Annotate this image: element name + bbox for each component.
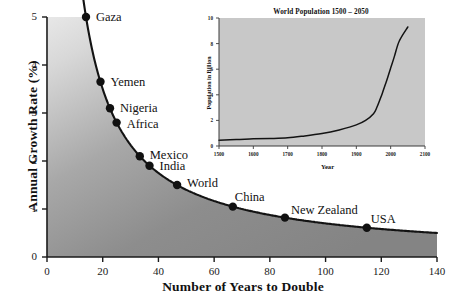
data-point-label-nigeria: Nigeria bbox=[120, 101, 157, 116]
data-point-new-zealand bbox=[281, 213, 289, 221]
data-point-mexico bbox=[136, 152, 144, 160]
inset-y-tick-label: 4 bbox=[201, 92, 213, 98]
inset-y-tick-label: 2 bbox=[201, 117, 213, 123]
x-tick-label: 80 bbox=[255, 265, 285, 277]
inset-y-tick-label: 8 bbox=[201, 41, 213, 47]
inset-x-tick-label: 2100 bbox=[415, 151, 435, 157]
inset-y-tick-label: 6 bbox=[201, 66, 213, 72]
x-tick-label: 20 bbox=[88, 265, 118, 277]
data-point-label-yemen: Yemen bbox=[110, 75, 145, 90]
inset-x-tick-label: 1800 bbox=[312, 151, 332, 157]
data-point-label-india: India bbox=[160, 159, 186, 174]
x-tick-label: 100 bbox=[311, 265, 341, 277]
x-tick-label: 40 bbox=[143, 265, 173, 277]
data-point-world bbox=[173, 181, 181, 189]
y-tick-label: 5 bbox=[17, 10, 37, 22]
inset-x-tick-label: 2000 bbox=[381, 151, 401, 157]
inset-x-tick-label: 1500 bbox=[209, 151, 229, 157]
y-tick-label: 4 bbox=[17, 58, 37, 70]
data-point-label-china: China bbox=[235, 190, 265, 205]
inset-chart-title: World Population 1500 – 2050 bbox=[197, 8, 445, 16]
y-tick-label: 0 bbox=[17, 250, 37, 262]
data-point-label-new-zealand: New Zealand bbox=[291, 203, 358, 218]
y-tick-label: 2 bbox=[17, 154, 37, 166]
inset-x-axis-title: Year bbox=[215, 163, 440, 170]
data-point-label-usa: USA bbox=[371, 212, 396, 227]
x-axis-title: Number of Years to Double bbox=[47, 279, 439, 295]
inset-y-tick-label: 0 bbox=[201, 143, 213, 149]
y-tick-label: 1 bbox=[17, 202, 37, 214]
inset-panel bbox=[219, 18, 425, 146]
inset-chart: World Population 1500 – 2050 Population … bbox=[197, 6, 445, 178]
data-point-nigeria bbox=[106, 104, 114, 112]
data-point-label-gaza: Gaza bbox=[96, 10, 122, 25]
y-tick-label: 3 bbox=[17, 106, 37, 118]
x-tick-label: 0 bbox=[32, 265, 62, 277]
inset-x-tick-label: 1900 bbox=[346, 151, 366, 157]
x-tick-label: 120 bbox=[366, 265, 396, 277]
inset-y-tick-label: 10 bbox=[201, 15, 213, 21]
data-point-yemen bbox=[96, 78, 104, 86]
data-point-africa bbox=[112, 118, 120, 126]
data-point-usa bbox=[363, 224, 371, 232]
chart-figure: Annual Growth Rate (%) Number of Years t… bbox=[0, 0, 451, 303]
data-point-label-africa: Africa bbox=[127, 117, 159, 132]
inset-y-axis-title: Population in Billion bbox=[206, 47, 212, 119]
inset-x-tick-label: 1600 bbox=[243, 151, 263, 157]
x-tick-label: 140 bbox=[422, 265, 451, 277]
data-point-gaza bbox=[82, 13, 90, 21]
inset-x-tick-label: 1700 bbox=[278, 151, 298, 157]
x-tick-label: 60 bbox=[199, 265, 229, 277]
